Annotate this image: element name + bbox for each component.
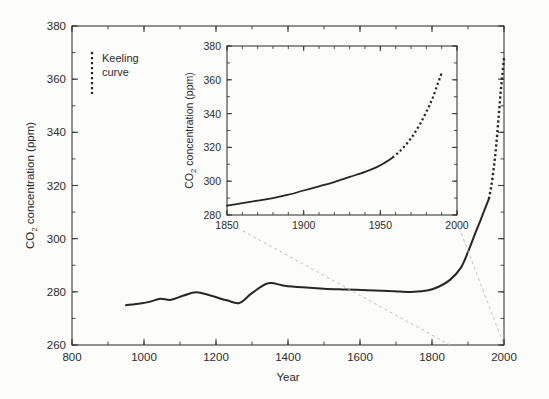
chart-canvas: 8001000120014001600180020002602803003203… <box>0 0 549 399</box>
inset-axes: 1850190019502000280300320340360380CO2 co… <box>183 40 469 231</box>
connector-line-right <box>457 222 504 345</box>
main-series-keeling-curve <box>489 58 504 199</box>
keeling-curve-legend: Keelingcurve <box>92 52 139 94</box>
main-ytick-label: 380 <box>47 20 66 32</box>
main-ytick-label: 280 <box>47 286 66 298</box>
main-ytick-label: 340 <box>47 126 66 138</box>
main-yaxis-title: CO2 concentration (ppm) <box>24 122 39 249</box>
inset-ytick-label: 320 <box>203 141 221 153</box>
main-xtick-label: 800 <box>62 351 81 363</box>
main-ytick-label: 320 <box>47 180 66 192</box>
inset-background <box>227 46 457 215</box>
keeling-curve-legend-line2: curve <box>102 66 129 78</box>
main-xaxis-title: Year <box>276 371 299 383</box>
inset-ytick-label: 280 <box>203 209 221 221</box>
main-xtick-label: 1400 <box>275 351 301 363</box>
main-xtick-label: 1800 <box>419 351 445 363</box>
inset-xtick-label: 1900 <box>292 219 316 231</box>
keeling-curve-legend-line1: Keeling <box>102 52 139 64</box>
main-ytick-label: 360 <box>47 73 66 85</box>
main-xtick-label: 1600 <box>347 351 373 363</box>
inset-yaxis-title: CO2 concentration (ppm) <box>183 72 198 189</box>
main-ytick-label: 260 <box>47 339 66 351</box>
main-ytick-label: 300 <box>47 233 66 245</box>
connector-line-left <box>227 222 450 345</box>
main-xtick-label: 1200 <box>203 351 229 363</box>
inset-ytick-label: 340 <box>203 108 221 120</box>
inset-xtick-label: 2000 <box>445 219 469 231</box>
inset-ytick-label: 360 <box>203 74 221 86</box>
inset-xtick-label: 1950 <box>369 219 393 231</box>
main-xtick-label: 1000 <box>131 351 157 363</box>
inset-ytick-label: 380 <box>203 40 221 52</box>
inset-ytick-label: 300 <box>203 175 221 187</box>
main-xtick-label: 2000 <box>491 351 517 363</box>
co2-concentration-figure: 8001000120014001600180020002602803003203… <box>0 0 549 399</box>
